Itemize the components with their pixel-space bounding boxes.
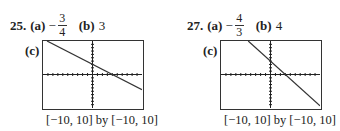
fraction: 3 4 — [58, 12, 67, 39]
problem-25: 25. (a) − 3 4 (b) 3 (c) [−10, 10] by [−1… — [0, 0, 170, 131]
problem-header: 25. (a) − 3 4 (b) 3 — [10, 12, 105, 39]
part-b-label: (b) — [79, 18, 95, 34]
calculator-screen — [220, 40, 322, 110]
negative-sign: − — [48, 18, 55, 34]
numerator: 4 — [236, 12, 242, 25]
window-settings: [−10, 10] by [−10, 10] — [46, 113, 158, 128]
graph-plot — [43, 41, 142, 108]
part-b-value: 4 — [276, 18, 283, 34]
denominator: 3 — [236, 26, 242, 39]
numerator: 3 — [59, 12, 65, 25]
part-b-value: 3 — [99, 18, 106, 34]
part-c-label: (c) — [203, 43, 217, 59]
part-a-label: (a) — [207, 18, 222, 34]
fraction: 4 3 — [235, 12, 244, 39]
window-settings: [−10, 10] by [−10, 10] — [224, 113, 336, 128]
problem-header: 27. (a) − 4 3 (b) 4 — [187, 12, 282, 39]
calculator-screen — [42, 40, 144, 110]
function-line — [248, 41, 320, 106]
problem-number: 27. — [187, 18, 203, 34]
graph-plot — [221, 41, 320, 108]
part-a-label: (a) — [30, 18, 45, 34]
denominator: 4 — [59, 26, 65, 39]
part-b-label: (b) — [256, 18, 272, 34]
problem-27: 27. (a) − 4 3 (b) 4 (c) [−10, 10] by [−1… — [170, 0, 340, 131]
function-line — [47, 41, 142, 90]
part-c-label: (c) — [25, 43, 39, 59]
negative-sign: − — [225, 18, 232, 34]
problem-number: 25. — [10, 18, 26, 34]
